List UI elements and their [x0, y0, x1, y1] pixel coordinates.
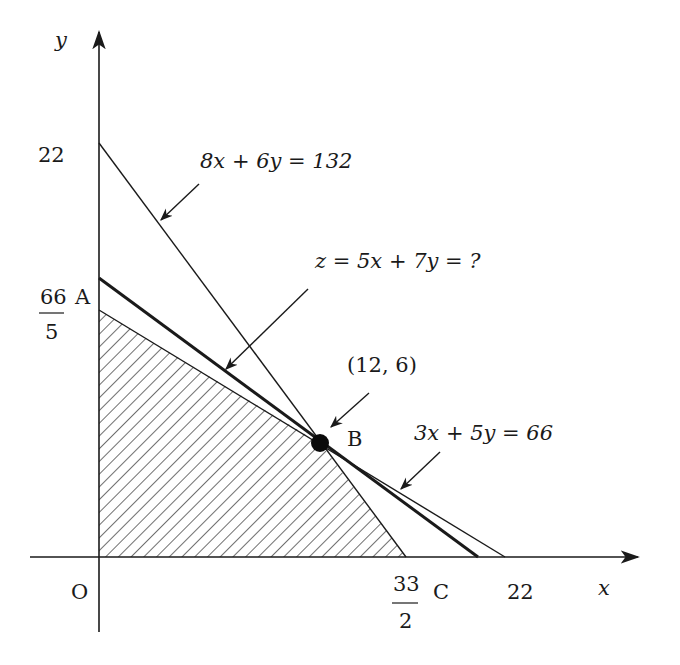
x-tick-33-2-numerator: 33 [393, 572, 420, 596]
arrow-to-objective [226, 289, 308, 369]
x-tick-33-2-denominator: 2 [399, 609, 412, 633]
lp-diagram: y x O 22 66 5 A 33 2 C 22 B (12, 6) 8x +… [0, 0, 680, 665]
line2-equation-label: 3x + 5y = 66 [414, 421, 553, 445]
arrow-to-point-b [331, 393, 369, 427]
optimal-point-b [311, 434, 329, 452]
y-axis-label: y [54, 28, 68, 52]
line1-equation-label: 8x + 6y = 132 [200, 149, 352, 173]
vertex-c-label: C [433, 580, 449, 604]
origin-label: O [71, 580, 88, 604]
y-tick-22: 22 [38, 143, 65, 167]
y-tick-66-5-numerator: 66 [40, 285, 67, 309]
x-axis-label: x [598, 576, 610, 600]
x-tick-22: 22 [507, 580, 534, 604]
y-tick-66-5-denominator: 5 [45, 320, 58, 344]
vertex-b-label: B [347, 427, 362, 451]
arrow-to-line2 [401, 452, 440, 489]
point-b-coords: (12, 6) [347, 353, 417, 377]
vertex-a-label: A [74, 285, 91, 309]
objective-equation-label: z = 5x + 7y = ? [314, 249, 481, 273]
arrow-to-line1 [161, 184, 199, 220]
